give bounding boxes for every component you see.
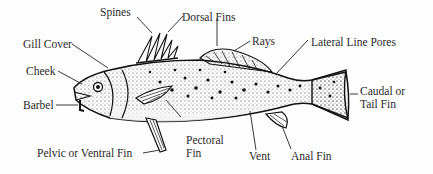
label-caudal-line1: Caudal or xyxy=(360,85,405,97)
label-pelvic-ventral-fin: Pelvic or Ventral Fin xyxy=(37,147,132,159)
label-spines: Spines xyxy=(100,6,131,18)
label-vent: Vent xyxy=(249,150,270,162)
label-pectoral-line1: Pectoral xyxy=(186,134,224,146)
caudal-fin xyxy=(312,70,348,120)
spiny-dorsal-fin xyxy=(136,33,178,63)
label-gill-cover: Gill Cover xyxy=(23,38,72,50)
label-rays: Rays xyxy=(252,35,275,47)
label-dorsal-fins: Dorsal Fins xyxy=(182,11,235,23)
fish-anatomy-diagram: Spines Dorsal Fins Rays Lateral Line Por… xyxy=(0,0,433,174)
label-pectoral-line2: Fin xyxy=(186,147,201,159)
label-caudal-line2: Tail Fin xyxy=(360,98,396,110)
label-barbel: Barbel xyxy=(23,99,54,111)
label-cheek: Cheek xyxy=(26,65,55,77)
label-anal-fin: Anal Fin xyxy=(291,150,332,162)
label-lateral-line-pores: Lateral Line Pores xyxy=(311,36,396,48)
